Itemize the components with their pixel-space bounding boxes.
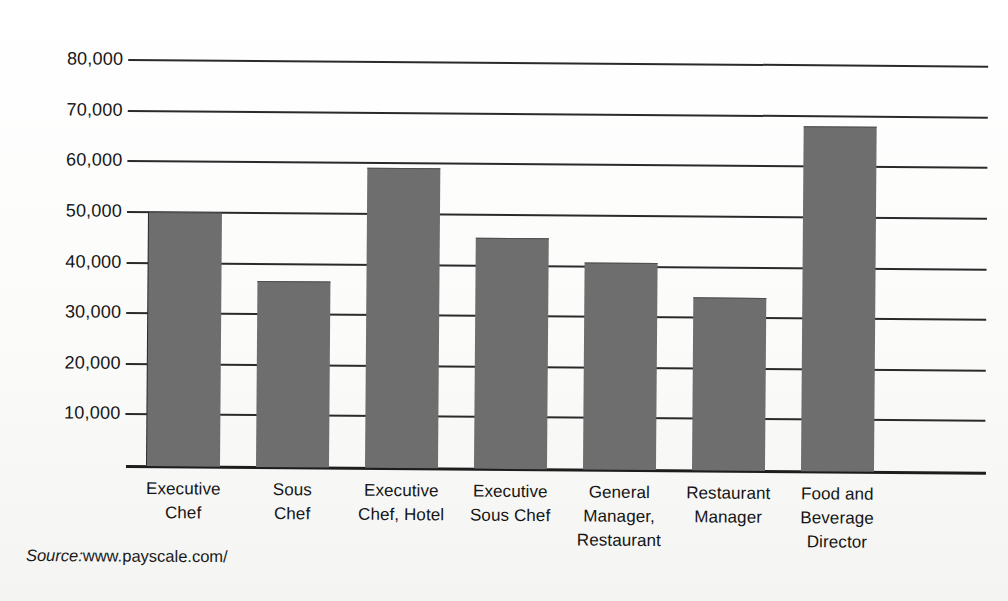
category-label-line: Beverage bbox=[781, 506, 894, 531]
category-label-line: Food and bbox=[781, 482, 894, 507]
x-axis-category-label: GeneralManager,Restaurant bbox=[562, 480, 676, 553]
x-axis-category-label: ExecutiveChef, Hotel bbox=[345, 479, 458, 528]
category-label-line: Director bbox=[780, 530, 893, 555]
category-label-line: Executive bbox=[454, 479, 567, 504]
x-axis-category-label: Food andBeverageDirector bbox=[780, 482, 894, 555]
category-label-line: General bbox=[563, 480, 676, 505]
bar bbox=[692, 297, 766, 471]
category-label-line: Sous bbox=[236, 478, 349, 503]
category-label-line: Chef bbox=[127, 501, 240, 526]
y-axis-tick-label: 10,000 bbox=[0, 403, 120, 422]
bar bbox=[147, 212, 222, 467]
source-url: www.payscale.com/ bbox=[83, 546, 228, 565]
gridline-70000 bbox=[128, 110, 988, 119]
category-label-line: Manager bbox=[672, 505, 785, 530]
y-axis-tick-label: 70,000 bbox=[3, 100, 123, 119]
category-label-line: Executive bbox=[127, 477, 240, 502]
category-label-line: Chef, Hotel bbox=[345, 503, 458, 528]
y-axis-tick-label: 30,000 bbox=[1, 302, 121, 321]
bar bbox=[365, 168, 440, 468]
gridline-80000 bbox=[128, 59, 988, 68]
category-label-line: Chef bbox=[236, 502, 349, 527]
x-axis-category-label: ExecutiveSous Chef bbox=[454, 479, 567, 528]
y-axis-tick-label: 80,000 bbox=[3, 49, 123, 68]
x-axis-category-label: RestaurantManager bbox=[672, 481, 785, 530]
bar-chart-figure: 10,00020,00030,00040,00050,00060,00070,0… bbox=[0, 0, 1008, 601]
category-label-line: Executive bbox=[345, 479, 458, 504]
bar bbox=[583, 263, 658, 470]
bar bbox=[256, 281, 330, 467]
scanned-page: 10,00020,00030,00040,00050,00060,00070,0… bbox=[0, 0, 1008, 601]
category-label-line: Sous Chef bbox=[454, 503, 567, 528]
y-axis-tick-label: 20,000 bbox=[1, 353, 121, 372]
y-axis-tick-label: 50,000 bbox=[2, 201, 122, 220]
plot-area: 10,00020,00030,00040,00050,00060,00070,0… bbox=[0, 0, 1008, 601]
y-axis-tick-label: 40,000 bbox=[2, 251, 122, 270]
bar bbox=[474, 237, 549, 469]
x-axis-category-label: SousChef bbox=[236, 478, 349, 527]
bar bbox=[801, 126, 877, 472]
y-axis-tick-label: 60,000 bbox=[2, 150, 122, 169]
category-label-line: Restaurant bbox=[562, 528, 675, 553]
category-label-line: Restaurant bbox=[672, 481, 785, 506]
category-label-line: Manager, bbox=[563, 504, 676, 529]
source-label: Source: bbox=[26, 546, 83, 564]
x-axis-category-label: ExecutiveChef bbox=[127, 477, 240, 526]
source-attribution: Source:www.payscale.com/ bbox=[26, 546, 228, 566]
